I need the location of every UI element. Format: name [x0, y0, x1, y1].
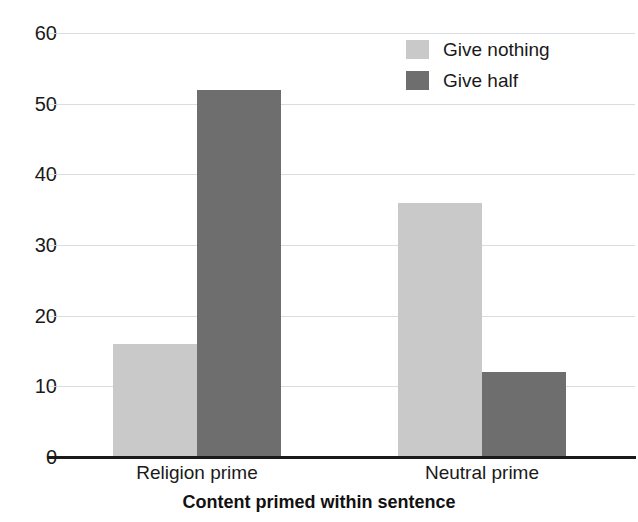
x-axis-category-label: Neutral prime [425, 462, 539, 484]
x-axis-baseline [48, 456, 636, 459]
bar [113, 344, 197, 457]
bar [482, 372, 566, 457]
legend-item-give-nothing: Give nothing [406, 36, 550, 62]
bar-chart: 0102030405060 Religion primeNeutral prim… [0, 0, 638, 522]
legend-item-give-half: Give half [406, 67, 550, 93]
x-axis-title: Content primed within sentence [0, 492, 638, 513]
x-axis-category-label: Religion prime [136, 462, 257, 484]
legend-swatch-give-nothing-icon [406, 40, 429, 59]
bar [197, 90, 281, 457]
legend-label-give-nothing: Give nothing [443, 40, 550, 59]
legend-label-give-half: Give half [443, 71, 518, 90]
bar [398, 203, 482, 457]
legend-swatch-give-half-icon [406, 71, 429, 90]
legend: Give nothing Give half [406, 36, 550, 98]
